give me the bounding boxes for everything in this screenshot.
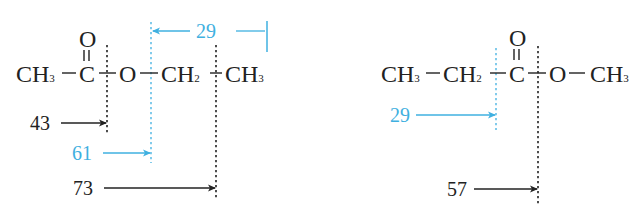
- cleavage-lines-and-arrows: [0, 0, 643, 215]
- right-group-ch3: CH3: [381, 62, 420, 90]
- left-carbonyl-oxygen: O: [79, 27, 96, 51]
- left-ester-oxygen: O: [119, 62, 136, 86]
- fragment-label-57: 57: [447, 179, 467, 199]
- right-ester-oxygen: O: [549, 62, 566, 86]
- left-group-ch3: CH3: [16, 62, 55, 90]
- fragment-label-73: 73: [73, 178, 93, 198]
- right-group-ch3-terminal: CH3: [590, 62, 629, 90]
- right-group-ch2: CH2: [443, 62, 482, 90]
- left-group-ch3-terminal: CH3: [225, 62, 264, 90]
- left-carbonyl-carbon: C: [79, 62, 95, 86]
- fragment-label-43: 43: [30, 113, 50, 133]
- left-group-ch2: CH2: [161, 62, 200, 90]
- fragment-label-29: 29: [196, 21, 216, 41]
- fragment-label-29-right: 29: [390, 105, 410, 125]
- mass-spec-fragmentation-diagram: CH3 C O O CH2 CH3 29 43 61 73 CH3 CH2 C …: [0, 0, 643, 215]
- fragment-label-61: 61: [72, 143, 92, 163]
- right-carbonyl-carbon: C: [509, 62, 525, 86]
- right-carbonyl-oxygen: O: [509, 26, 526, 50]
